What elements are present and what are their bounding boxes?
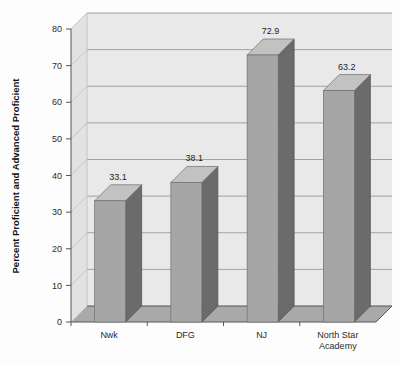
bar-side-face (202, 166, 218, 322)
bar-group (95, 185, 142, 322)
x-category-label: Academy (319, 341, 357, 351)
y-tick-label: 0 (57, 317, 62, 327)
bar-value-label: 63.2 (338, 62, 356, 72)
x-axis-category-labels: NwkDFGNJNorth StarAcademy (100, 330, 358, 351)
y-tick-label: 80 (52, 24, 62, 34)
chart-container: 01020304050607080 33.138.172.963.2 NwkDF… (0, 0, 401, 365)
y-tick-label: 50 (52, 134, 62, 144)
bar-front-face (247, 55, 278, 322)
y-tick-label: 60 (52, 97, 62, 107)
bar-group (171, 166, 218, 322)
bar-side-face (278, 39, 294, 322)
bar-side-face (126, 185, 142, 322)
bar-side-face (354, 75, 370, 322)
x-category-label: DFG (176, 330, 195, 340)
y-tick-label: 20 (52, 244, 62, 254)
bar-chart-3d: 01020304050607080 33.138.172.963.2 NwkDF… (0, 0, 401, 365)
bar-front-face (323, 91, 354, 322)
y-tick-label: 10 (52, 281, 62, 291)
bar-group (247, 39, 294, 322)
bar-front-face (171, 182, 202, 322)
x-category-label: Nwk (100, 330, 118, 340)
y-tick-label: 40 (52, 171, 62, 181)
bar-front-face (95, 201, 126, 322)
y-tick-label: 70 (52, 61, 62, 71)
bar-value-label: 72.9 (262, 26, 280, 36)
y-axis-title: Percent Proficient and Advanced Proficie… (10, 78, 21, 274)
x-category-label: NJ (256, 330, 267, 340)
bar-value-label: 33.1 (109, 172, 127, 182)
bar-group (323, 75, 370, 322)
x-category-label: North Star (317, 330, 358, 340)
bar-value-label: 38.1 (186, 153, 204, 163)
y-tick-label: 30 (52, 207, 62, 217)
y-axis-title-text: Percent Proficient and Advanced Proficie… (10, 78, 21, 274)
